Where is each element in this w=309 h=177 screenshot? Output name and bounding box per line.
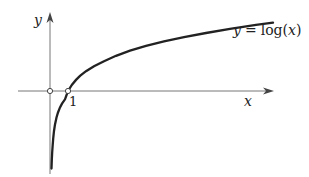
curve-label: y=log(x) <box>232 22 301 38</box>
tick-label-one: 1 <box>69 94 77 109</box>
x-axis-label: x <box>244 93 252 109</box>
x-intercept-point <box>65 88 70 93</box>
log-curve <box>52 23 274 169</box>
origin-point <box>47 88 52 93</box>
y-axis-label: y <box>33 12 43 28</box>
log-function-plot: y x 1 y=log(x) <box>0 0 309 177</box>
